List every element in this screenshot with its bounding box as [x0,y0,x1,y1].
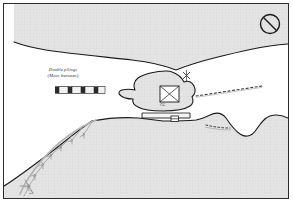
north-shoreline-land [14,4,288,70]
building-marker-label: CG [160,103,165,107]
island-landmass [119,71,195,111]
piling-note-line-2: (Moor between) [28,73,98,79]
causeway-bridge [142,113,190,118]
harbor-chart-figure: Double pilings (Moor between) CG [0,0,293,213]
cross-marker [183,70,190,81]
double-piling-symbol [55,87,105,94]
chart-drawing-canvas [0,0,293,213]
east-pier-dotted [196,86,262,96]
east-pier-baseline [196,87,262,97]
piling-note-line-1: Double pilings [28,67,98,73]
